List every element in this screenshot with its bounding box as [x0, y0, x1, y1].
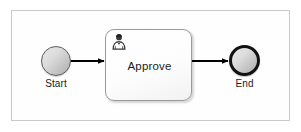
user-task-approve[interactable]: Approve	[105, 29, 192, 101]
start-event-label: Start	[31, 78, 81, 89]
start-event-node[interactable]	[41, 46, 71, 76]
end-event-label: End	[219, 78, 270, 89]
bpmn-diagram: Start Approve End	[0, 0, 301, 132]
diagram-canvas: Start Approve End	[0, 0, 301, 132]
end-event-node[interactable]	[229, 45, 260, 76]
user-task-label: Approve	[106, 30, 193, 102]
